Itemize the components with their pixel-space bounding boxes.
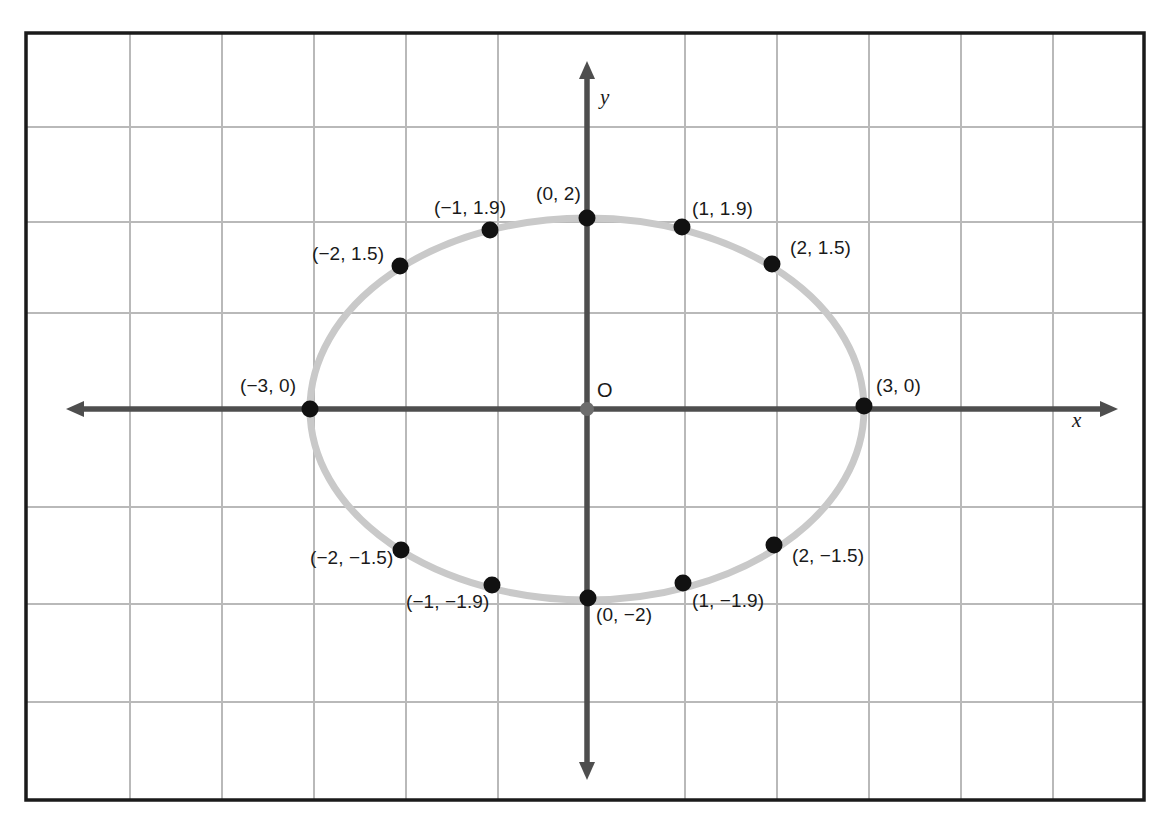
point-label-neg1-neg1p9: (−1, −1.9) <box>406 591 489 613</box>
data-point-marker <box>580 590 597 607</box>
data-point-marker <box>674 219 691 236</box>
point-label-1-1p9: (1, 1.9) <box>692 198 753 220</box>
point-label-1-neg1p9: (1, −1.9) <box>692 590 764 612</box>
coordinate-plane-figure: (−3, 0) (−2, 1.5) (−1, 1.9) (0, 2) (1, 1… <box>0 0 1166 822</box>
y-axis-down-arrowhead <box>579 762 595 780</box>
point-label-3-0: (3, 0) <box>876 375 921 397</box>
data-point-marker <box>675 575 692 592</box>
axes <box>78 73 1107 768</box>
data-point-marker <box>302 401 319 418</box>
point-label-0-2: (0, 2) <box>536 183 581 205</box>
coordinate-plane-svg <box>0 0 1166 822</box>
x-axis-label: x <box>1072 408 1081 433</box>
data-point-marker <box>856 398 873 415</box>
point-label-2-1p5: (2, 1.5) <box>790 237 851 259</box>
point-label-neg2-1p5: (−2, 1.5) <box>312 243 384 265</box>
y-axis-label: y <box>600 85 609 110</box>
data-point-marker <box>482 222 499 239</box>
origin-label: O <box>597 379 613 402</box>
data-point-marker <box>764 256 781 273</box>
point-label-0-neg2: (0, −2) <box>596 604 652 626</box>
data-point-marker <box>579 210 596 227</box>
origin-marker <box>580 402 594 416</box>
point-label-neg1-1p9: (−1, 1.9) <box>434 197 506 219</box>
point-label-neg2-neg1p5: (−2, −1.5) <box>310 547 393 569</box>
data-point-marker <box>766 537 783 554</box>
x-axis-right-arrowhead <box>1100 401 1118 417</box>
y-axis-up-arrowhead <box>579 61 595 79</box>
data-point-marker <box>393 542 410 559</box>
data-point-marker <box>392 258 409 275</box>
point-label-2-neg1p5: (2, −1.5) <box>792 545 864 567</box>
point-label-neg3-0: (−3, 0) <box>240 375 296 397</box>
x-axis-left-arrowhead <box>66 401 84 417</box>
